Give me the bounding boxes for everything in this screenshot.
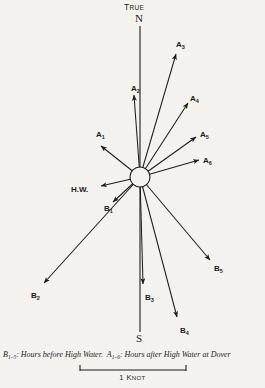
- caption-a-text: : Hours after High Water at Dover: [120, 350, 231, 359]
- vector-label-b3: B3: [145, 294, 154, 302]
- vector-arrow-b2: [44, 177, 140, 283]
- scale-bar-label: 1 KNOT: [0, 374, 265, 382]
- scale-label-first: 1 K: [119, 373, 131, 382]
- vector-arrow-a2: [134, 95, 140, 177]
- vector-label-b2: B2: [31, 292, 40, 300]
- north-label: N: [135, 13, 143, 24]
- south-label: S: [136, 333, 142, 344]
- caption-a-range: 1–6: [112, 354, 120, 360]
- current-rose-diagram: [0, 0, 265, 388]
- true-caption-rest: RUE: [130, 4, 145, 11]
- caption-b-range: 1–5: [8, 354, 16, 360]
- vector-rays: [44, 54, 210, 317]
- true-north-caption: TRUE: [124, 3, 144, 12]
- legend-caption: B1–5: Hours before High Water. A1–6: Hou…: [3, 351, 262, 360]
- vector-label-a5: A5: [200, 131, 209, 139]
- figure-canvas: TRUE N S A1A2A3A4A5A6B1B2B3B4B5H.W. B1–5…: [0, 0, 265, 388]
- vector-arrow-a4: [140, 103, 188, 177]
- scale-label-rest: NOT: [132, 375, 146, 381]
- caption-b-text: : Hours before High Water.: [16, 350, 107, 359]
- vector-label-a6: A6: [203, 157, 212, 165]
- vector-label-a3: A3: [176, 41, 185, 49]
- vector-label-b1: B1: [104, 205, 113, 213]
- vector-label-a2: A2: [131, 85, 140, 93]
- vector-arrow-a3: [140, 54, 176, 177]
- vector-label-hw: H.W.: [71, 186, 88, 194]
- caption-a-symbol: A: [107, 350, 112, 359]
- vector-label-b5: B5: [214, 265, 223, 273]
- vector-label-a4: A4: [190, 95, 199, 103]
- vector-label-b4: B4: [180, 327, 189, 335]
- hub-circle: [130, 167, 150, 187]
- vector-label-a1: A1: [96, 131, 105, 139]
- scale-bar: [80, 365, 186, 371]
